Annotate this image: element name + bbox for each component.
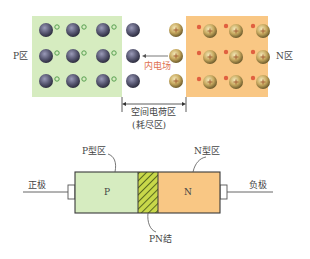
n-type-leader (193, 157, 206, 172)
diode-structure (0, 0, 310, 259)
pn-junction-block (138, 172, 158, 213)
p-type-leader (108, 154, 116, 172)
p-letter: P (104, 188, 110, 197)
cathode-terminal (220, 185, 227, 199)
junction-leader (148, 213, 156, 232)
anode-terminal (68, 185, 75, 199)
n-letter: N (184, 188, 192, 197)
p-type-region-label: P型区 (82, 147, 106, 156)
cathode-label: 负极 (249, 181, 267, 190)
anode-label: 正极 (28, 181, 46, 190)
n-type-region-label: N型区 (194, 147, 220, 156)
pn-junction-label: PN结 (149, 235, 172, 244)
